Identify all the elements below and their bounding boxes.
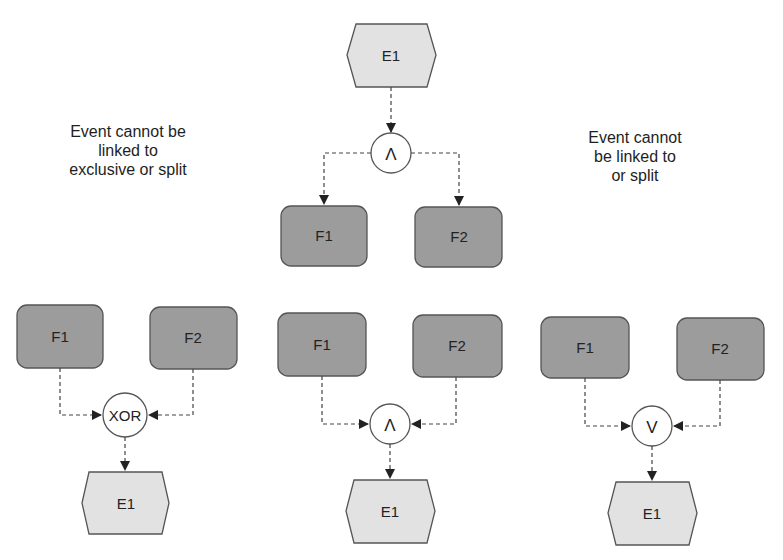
function-label: F2 (184, 329, 202, 346)
connector-arrow (324, 153, 371, 204)
note-line: linked to (28, 141, 228, 160)
connector-arrow (411, 153, 459, 205)
event-label: E1 (117, 495, 135, 512)
or-operator-icon: V (646, 418, 658, 437)
connector-arrow (60, 368, 101, 415)
function-label: F1 (315, 227, 333, 244)
diagram-bottom-middle-and-join: F1 F2 Λ E1 (278, 313, 502, 543)
connector-arrow (322, 376, 368, 424)
event-label: E1 (381, 503, 399, 520)
connector-arrow (149, 369, 193, 415)
xor-operator-label: XOR (109, 407, 142, 424)
function-label: F1 (576, 339, 594, 356)
note-line: exclusive or split (28, 160, 228, 179)
function-label: F1 (313, 336, 331, 353)
event-label: E1 (643, 505, 661, 522)
function-label: F2 (448, 337, 466, 354)
epc-diagram-canvas: E1 Λ F1 F2 F1 F2 XOR E1 F1 F2 Λ (0, 0, 783, 560)
diagram-bottom-left-xor-join: F1 F2 XOR E1 (17, 305, 237, 534)
diagram-top-and-split: E1 Λ F1 F2 (281, 24, 502, 267)
and-operator-icon: Λ (385, 145, 397, 164)
function-label: F2 (711, 340, 729, 357)
note-line: or split (555, 166, 715, 185)
note-right-or-split-rule: Event cannot be linked to or split (555, 128, 715, 185)
function-label: F2 (450, 228, 468, 245)
event-label: E1 (382, 47, 400, 64)
connector-arrow (412, 377, 456, 424)
note-line: Event cannot (555, 128, 715, 147)
diagram-bottom-right-or-join: F1 F2 V E1 (541, 317, 764, 545)
note-line: be linked to (555, 147, 715, 166)
note-line: Event cannot be (28, 122, 228, 141)
note-left-xor-split-rule: Event cannot be linked to exclusive or s… (28, 122, 228, 179)
and-operator-icon: Λ (384, 416, 396, 435)
connector-arrow (674, 380, 720, 426)
function-label: F1 (51, 328, 69, 345)
connector-arrow (585, 378, 630, 426)
